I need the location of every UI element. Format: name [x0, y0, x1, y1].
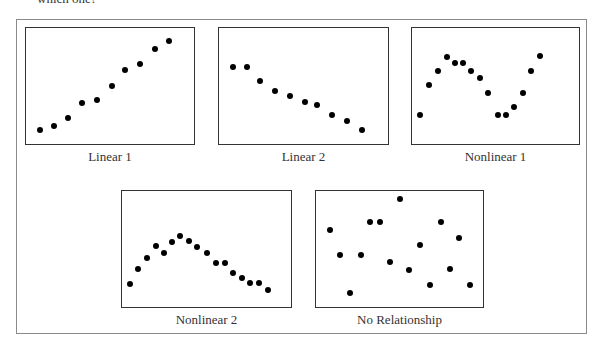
data-point: [387, 259, 393, 265]
data-point: [166, 38, 172, 44]
data-point: [460, 60, 466, 66]
data-point: [327, 227, 333, 233]
data-point: [537, 53, 543, 59]
data-point: [127, 281, 133, 287]
scatter-plot-no-relationship: [315, 190, 484, 308]
data-point: [37, 127, 43, 133]
data-point: [265, 287, 271, 293]
data-point: [456, 235, 462, 241]
label-linear-1: Linear 1: [25, 149, 195, 165]
data-point: [51, 123, 57, 129]
data-point: [477, 75, 483, 81]
data-point: [452, 60, 458, 66]
data-point: [244, 64, 250, 70]
data-point: [194, 244, 200, 250]
data-point: [230, 270, 236, 276]
data-point: [528, 68, 534, 74]
data-point: [417, 112, 423, 118]
data-point: [337, 252, 343, 258]
data-point: [467, 282, 473, 288]
data-point: [94, 97, 100, 103]
data-point: [495, 112, 501, 118]
data-point: [520, 90, 526, 96]
data-point: [144, 255, 150, 261]
data-point: [426, 82, 432, 88]
data-point: [435, 68, 441, 74]
label-nonlinear-1: Nonlinear 1: [411, 149, 580, 165]
data-point: [79, 100, 85, 106]
data-point: [257, 78, 263, 84]
data-point: [438, 219, 444, 225]
data-point: [213, 260, 219, 266]
data-point: [397, 196, 403, 202]
data-point: [314, 102, 320, 108]
data-point: [161, 250, 167, 256]
data-point: [377, 219, 383, 225]
data-point: [122, 67, 128, 73]
data-point: [153, 243, 159, 249]
data-point: [427, 282, 433, 288]
data-point: [358, 252, 364, 258]
data-point: [417, 242, 423, 248]
label-no-relationship: No Relationship: [315, 312, 484, 328]
data-point: [256, 280, 262, 286]
data-point: [302, 99, 308, 105]
label-nonlinear-2: Nonlinear 2: [121, 312, 292, 328]
data-point: [511, 104, 517, 110]
data-point: [169, 239, 175, 245]
data-point: [359, 127, 365, 133]
data-point: [367, 219, 373, 225]
data-point: [329, 112, 335, 118]
data-point: [222, 260, 228, 266]
data-point: [468, 68, 474, 74]
data-point: [485, 90, 491, 96]
label-linear-2: Linear 2: [218, 149, 389, 165]
data-point: [177, 233, 183, 239]
data-point: [247, 280, 253, 286]
data-point: [344, 118, 350, 124]
clipped-question-text: which one?: [37, 0, 97, 7]
data-point: [135, 266, 141, 272]
data-point: [347, 290, 353, 296]
data-point: [152, 46, 158, 52]
data-point: [109, 83, 115, 89]
data-point: [230, 64, 236, 70]
data-point: [239, 275, 245, 281]
data-point: [287, 93, 293, 99]
data-point: [444, 54, 450, 60]
data-point: [204, 250, 210, 256]
data-point: [137, 61, 143, 67]
data-point: [186, 238, 192, 244]
data-point: [503, 112, 509, 118]
data-point: [447, 266, 453, 272]
scatter-plot-nonlinear-1: [411, 27, 580, 145]
data-point: [65, 115, 71, 121]
data-point: [406, 267, 412, 273]
data-point: [272, 88, 278, 94]
